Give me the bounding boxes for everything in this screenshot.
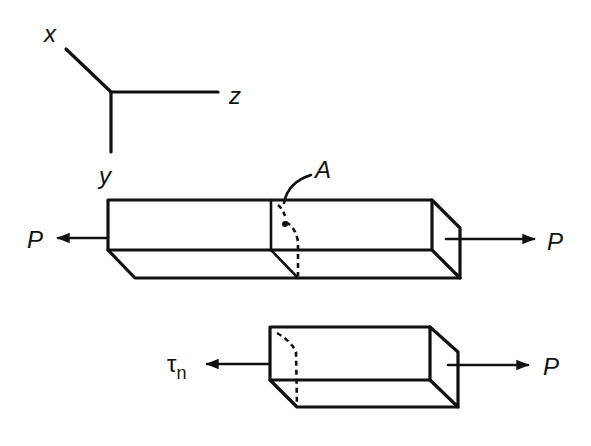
diagram-canvas: x z y A P P τn P — [0, 0, 591, 446]
left-force-label: P — [27, 226, 43, 253]
x-axis-line — [66, 49, 111, 92]
segment-cut-face-curve — [277, 333, 297, 405]
coordinate-axes: x z y — [43, 20, 241, 189]
z-axis-label: z — [228, 82, 241, 109]
segment-front-face — [270, 327, 430, 380]
segment-bottom-face — [270, 380, 458, 407]
segment-right-force-label: P — [543, 353, 559, 380]
shear-stress-label: τn — [167, 350, 187, 383]
section-line-bottom — [271, 250, 298, 278]
segment-end-face — [430, 327, 458, 407]
y-axis-label: y — [97, 162, 113, 189]
section-point-marker — [282, 221, 288, 227]
section-hidden-curve — [278, 205, 298, 276]
x-axis-label: x — [43, 20, 57, 47]
right-force-label: P — [547, 228, 563, 255]
free-body-segment: τn P — [167, 327, 559, 407]
section-label-a: A — [313, 156, 331, 183]
